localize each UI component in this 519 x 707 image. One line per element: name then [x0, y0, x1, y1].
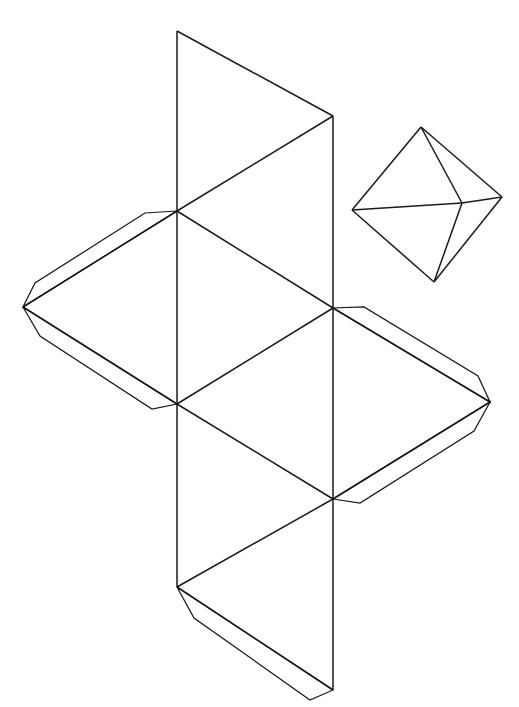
- preview-edge-top-left: [352, 127, 421, 210]
- preview-edge-center-bottom: [434, 203, 462, 282]
- preview-edge-top-right: [421, 127, 502, 197]
- preview-edge-right-bottom: [434, 197, 502, 282]
- octahedron-preview-group: [352, 127, 502, 282]
- preview-edge-left-center: [352, 203, 462, 210]
- octahedron-net-drawing: [0, 0, 519, 707]
- preview-edge-left-bottom: [352, 210, 434, 282]
- net-group: [23, 31, 490, 700]
- preview-edge-top-center: [421, 127, 462, 203]
- paper-sheet: [0, 0, 519, 707]
- preview-edge-center-right: [462, 197, 502, 203]
